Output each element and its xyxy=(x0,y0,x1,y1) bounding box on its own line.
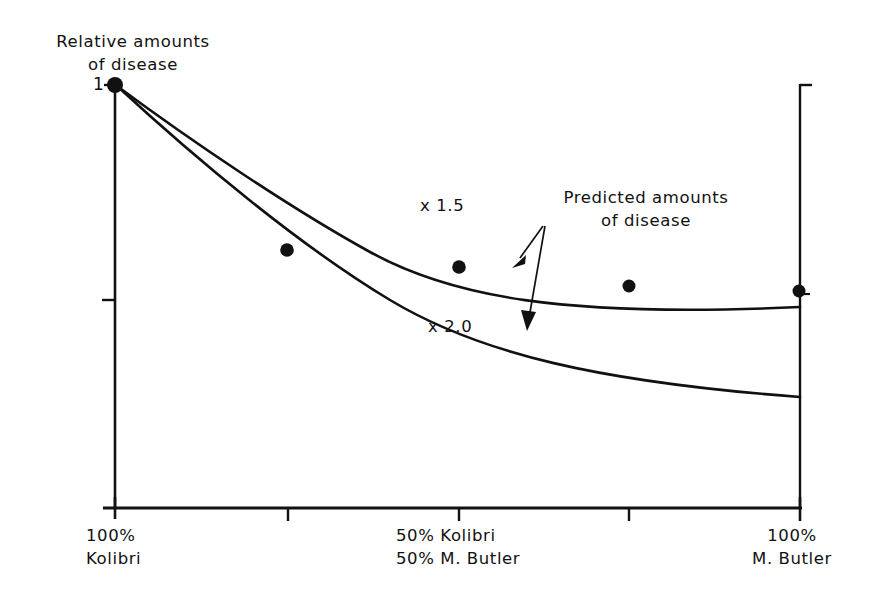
x-axis-label-center: 50% Kolibri 50% M. Butler xyxy=(396,524,520,570)
annotation-arrow-lower-line xyxy=(529,226,545,318)
x-axis-label-right-line2: M. Butler xyxy=(752,549,832,568)
disease-decay-chart: Relative amounts of disease 1 100% Kolib… xyxy=(0,0,874,595)
x-axis-label-left-line2: Kolibri xyxy=(86,549,141,568)
data-point-2 xyxy=(452,260,466,274)
plot-area xyxy=(0,0,874,595)
data-point-4 xyxy=(793,285,806,298)
data-point-1 xyxy=(280,243,294,257)
annotation-predicted-line1: Predicted amounts xyxy=(563,188,728,207)
x-axis-label-center-line1: 50% Kolibri xyxy=(396,526,496,545)
annotation-arrow-upper-head xyxy=(512,255,526,268)
data-point-3 xyxy=(623,280,636,293)
data-point-0 xyxy=(107,77,123,93)
annotation-predicted-amounts: Predicted amounts of disease xyxy=(556,186,736,232)
annotation-arrow-lower-head xyxy=(521,310,536,331)
curve-label-x-1-5: x 1.5 xyxy=(420,196,464,215)
y-axis-title-line1: Relative amounts xyxy=(56,32,210,51)
y-axis-tick-label-1: 1 xyxy=(93,74,104,94)
x-axis-label-right-line1: 100% xyxy=(767,526,817,545)
x-axis-label-left: 100% Kolibri xyxy=(86,524,141,570)
x-axis-label-right: 100% M. Butler xyxy=(742,524,842,570)
curve-label-x-2-0: x 2.0 xyxy=(428,317,472,336)
y-axis-title-line2: of disease xyxy=(88,55,178,74)
annotation-predicted-line2: of disease xyxy=(601,211,691,230)
curve-x-2-0 xyxy=(117,86,800,397)
y-axis-title: Relative amounts of disease xyxy=(38,30,228,76)
x-axis-label-center-line2: 50% M. Butler xyxy=(396,549,520,568)
x-axis-label-left-line1: 100% xyxy=(86,526,136,545)
